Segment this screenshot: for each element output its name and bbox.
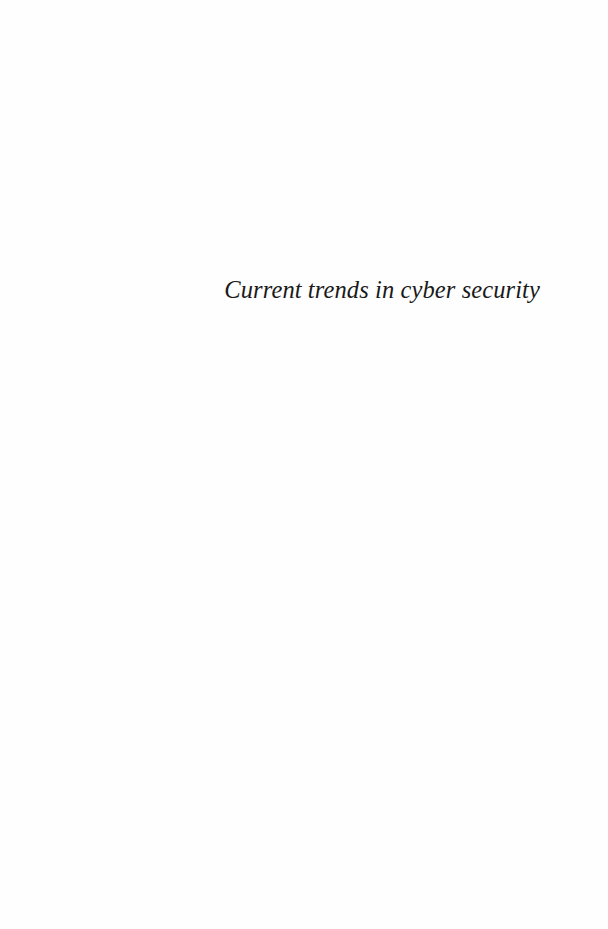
book-half-title-page: Current trends in cyber security xyxy=(0,0,608,929)
half-title: Current trends in cyber security xyxy=(224,274,540,306)
